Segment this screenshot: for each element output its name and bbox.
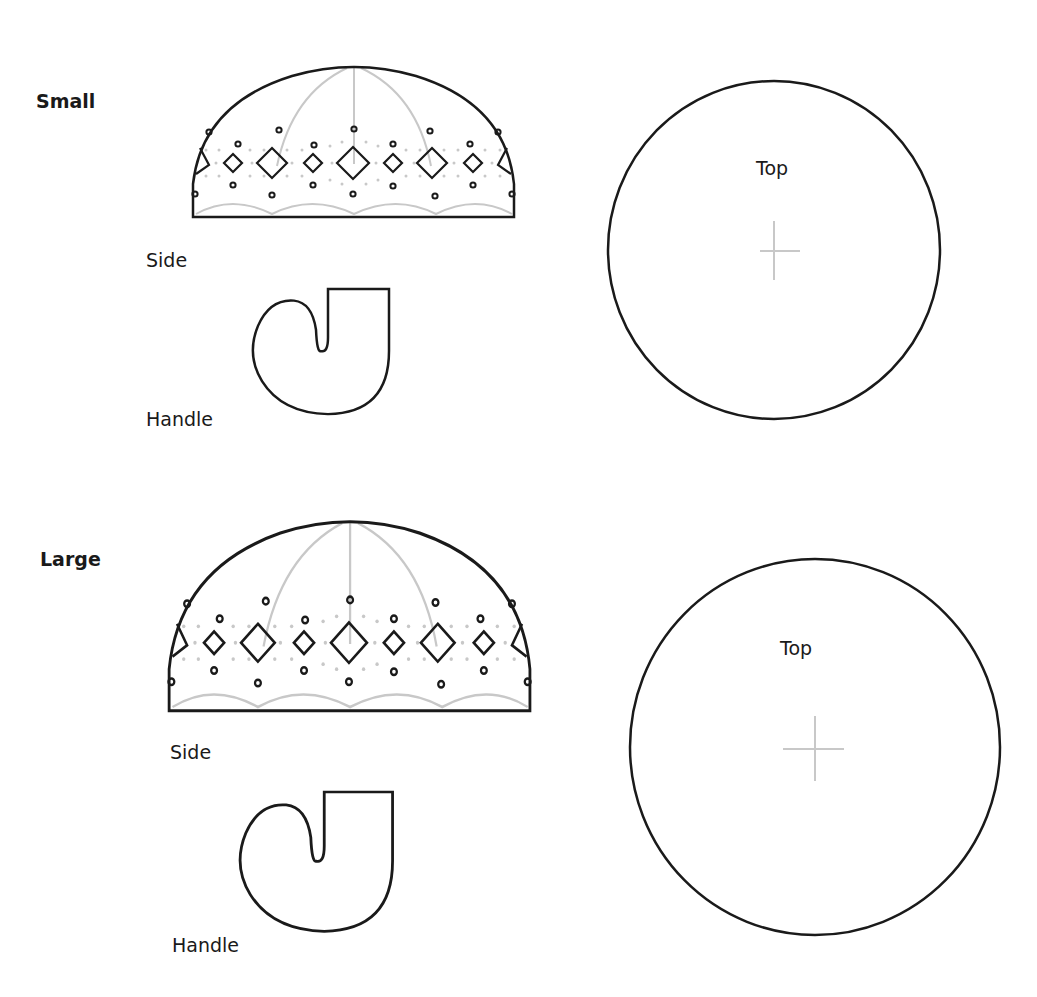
side-view-large (168, 522, 530, 711)
top-view-small (608, 81, 940, 419)
side-view-small (192, 67, 514, 217)
center-cross-icon (760, 221, 800, 280)
handle-view-large (240, 792, 392, 931)
center-cross-icon (783, 716, 844, 781)
top-view-large (630, 559, 1000, 935)
handle-view-small (253, 289, 389, 414)
